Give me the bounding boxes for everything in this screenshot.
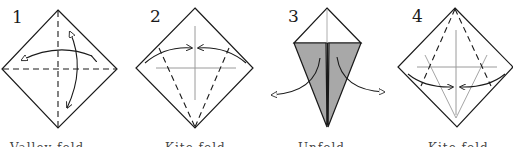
step-caption-1: Valley fold	[10, 141, 84, 147]
left-flap	[294, 43, 327, 127]
step-caption-3: Unfold	[298, 141, 345, 147]
step-1-diagram	[2, 10, 117, 128]
step-caption-4: Kite fold	[428, 141, 489, 147]
step-caption-2: Kite fold	[165, 141, 226, 147]
step-number-4: 4	[412, 8, 423, 25]
paper-square	[2, 10, 117, 128]
step-number-1: 1	[12, 9, 23, 26]
step-2-diagram	[136, 8, 253, 128]
top-triangle	[294, 8, 361, 43]
origami-diagram: 1 2 3 4 Valley fold Kite fold Unfold Kit…	[0, 0, 513, 147]
step-number-2: 2	[150, 8, 161, 25]
step-number-3: 3	[288, 8, 299, 25]
